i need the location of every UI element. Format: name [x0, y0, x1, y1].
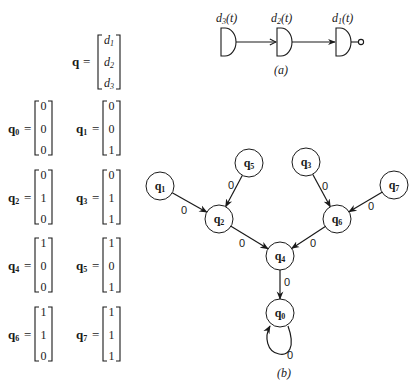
- matrix-value: 1: [109, 143, 115, 157]
- delay-gate-d3-icon: [221, 28, 236, 56]
- matrix-value: 0: [41, 280, 47, 294]
- state-label: q7: [76, 327, 87, 343]
- right-bracket: [48, 307, 52, 361]
- left-bracket: [103, 101, 107, 155]
- matrix-value: 0: [41, 99, 47, 113]
- node-q3: q3: [292, 148, 320, 176]
- left-bracket: [35, 170, 39, 224]
- matrix-value: 1: [109, 328, 115, 342]
- equals-sign: =: [92, 327, 99, 342]
- state-q0: q0 = 0 0 0: [8, 99, 52, 157]
- matrix-value: 1: [109, 349, 115, 363]
- matrix-value: 1: [41, 191, 47, 205]
- vector-entry: d2: [104, 55, 114, 70]
- edge-label: 0: [181, 204, 187, 216]
- gate-label-d1: d1(t): [332, 11, 353, 26]
- state-label: q3: [76, 190, 87, 206]
- state-label: q0: [8, 121, 19, 137]
- matrix-value: 0: [109, 99, 115, 113]
- right-bracket: [116, 35, 120, 89]
- edge-label: 0: [310, 237, 316, 249]
- node-q6: q6: [323, 205, 351, 233]
- caption-a: (a): [274, 63, 288, 77]
- left-bracket: [35, 101, 39, 155]
- matrix-value: 0: [41, 212, 47, 226]
- left-bracket: [35, 238, 39, 292]
- equals-sign: =: [24, 190, 31, 205]
- right-bracket: [48, 238, 52, 292]
- edge-q1-q2: [172, 193, 207, 212]
- left-bracket: [98, 35, 102, 89]
- right-bracket: [116, 170, 120, 224]
- matrix-value: 0: [41, 349, 47, 363]
- state-label: q2: [8, 190, 19, 206]
- equals-sign: =: [24, 121, 31, 136]
- state-q5: q5 = 1 0 1: [76, 236, 120, 294]
- left-bracket: [103, 170, 107, 224]
- node-q5: q5: [235, 149, 263, 177]
- right-bracket: [116, 101, 120, 155]
- state-label: q1: [76, 121, 87, 137]
- right-bracket: [116, 307, 120, 361]
- edge-q6-q4: [292, 227, 326, 249]
- figure: q = d1 d2 d3 q0 = 0 0 0 q1 = 0 0 1 q2 = …: [0, 0, 415, 384]
- matrix-value: 0: [41, 259, 47, 273]
- state-q1: q1 = 0 0 1: [76, 99, 120, 157]
- state-vector-definition: q = d1 d2 d3: [72, 33, 120, 91]
- matrix-value: 0: [41, 143, 47, 157]
- matrix-value: 1: [109, 191, 115, 205]
- left-bracket: [35, 307, 39, 361]
- vector-entry: d3: [104, 76, 114, 91]
- edge-label: 0: [228, 179, 234, 191]
- matrix-value: 1: [41, 328, 47, 342]
- node-q1: q1: [146, 172, 174, 200]
- matrix-value: 1: [109, 212, 115, 226]
- equals-sign: =: [83, 54, 90, 69]
- right-bracket: [48, 170, 52, 224]
- state-q3: q3 = 0 1 1: [76, 168, 120, 226]
- delay-gate-d2-icon: [277, 28, 292, 56]
- matrix-value: 1: [41, 236, 47, 250]
- node-q2: q2: [205, 205, 233, 233]
- vector-entry: d1: [104, 33, 114, 48]
- state-q2: q2 = 0 1 0: [8, 168, 52, 226]
- gate-label-d2: d2(t): [271, 11, 292, 26]
- right-bracket: [48, 101, 52, 155]
- equals-sign: =: [92, 190, 99, 205]
- left-bracket: [103, 238, 107, 292]
- delay-gate-d1-icon: [336, 28, 351, 56]
- edge-label: 0: [284, 276, 290, 288]
- edge-label: 0: [322, 180, 328, 192]
- state-label: q6: [8, 327, 19, 343]
- circuit-diagram: d3(t) d2(t) d1(t) (a): [216, 11, 364, 77]
- edge-q7-q6: [349, 192, 382, 212]
- matrix-value: 1: [109, 236, 115, 250]
- matrix-value: 0: [109, 122, 115, 136]
- node-q7: q7: [380, 171, 408, 199]
- state-vector-symbol: q: [72, 54, 80, 69]
- edge-label: 0: [287, 349, 293, 361]
- node-q4: q4: [266, 242, 294, 270]
- equals-sign: =: [24, 327, 31, 342]
- gate-label-d3: d3(t): [216, 11, 237, 26]
- state-q7: q7 = 1 1 1: [76, 305, 120, 363]
- edge-q2-q4: [231, 226, 268, 248]
- state-q4: q4 = 1 0 0: [8, 236, 52, 294]
- matrix-value: 0: [41, 122, 47, 136]
- matrix-value: 1: [41, 305, 47, 319]
- equals-sign: =: [92, 258, 99, 273]
- node-q0: q0: [266, 299, 294, 327]
- equals-sign: =: [24, 258, 31, 273]
- matrix-value: 1: [109, 280, 115, 294]
- matrix-value: 1: [109, 305, 115, 319]
- inverter-bubble-icon: [358, 39, 363, 44]
- right-bracket: [116, 238, 120, 292]
- state-label: q4: [8, 258, 19, 274]
- equals-sign: =: [92, 121, 99, 136]
- matrix-value: 0: [41, 168, 47, 182]
- edge-label: 0: [368, 200, 374, 212]
- state-label: q5: [76, 258, 87, 274]
- matrix-value: 0: [109, 259, 115, 273]
- left-bracket: [103, 307, 107, 361]
- state-graph: 0 0 0 0 0 0 0 0 q1 q5 q3 q7 q2 q6: [146, 148, 408, 380]
